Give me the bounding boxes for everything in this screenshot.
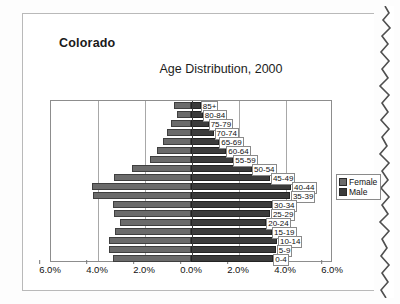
bar-half-male: 35-39 (191, 191, 331, 200)
age-group-label: 0-4 (273, 254, 289, 266)
bar-row: 10-14 (51, 236, 331, 245)
bar-male (191, 246, 276, 253)
bar-half-female (51, 101, 191, 110)
bar-half-female (51, 173, 191, 182)
bar-half-male: 15-19 (191, 227, 331, 236)
bar-female (150, 156, 191, 163)
bar-female (114, 210, 191, 217)
bar-half-female (51, 119, 191, 128)
x-axis-tick: 4.0% (86, 264, 108, 275)
torn-paper-edge (376, 6, 394, 298)
bar-female (163, 138, 191, 145)
bar-row: 60-64 (51, 146, 331, 155)
legend-label-male: Male (349, 187, 367, 197)
bar-half-female (51, 254, 191, 263)
bar-row: 25-29 (51, 209, 331, 218)
legend-item-male: Male (339, 187, 377, 197)
bar-female (177, 111, 191, 118)
bar-female (109, 246, 191, 253)
bar-row: 35-39 (51, 191, 331, 200)
bar-row: 85+ (51, 101, 331, 110)
bar-male (191, 237, 277, 244)
chart-title-text: Age Distribution, 2000 (160, 62, 283, 76)
bar-half-male: 10-14 (191, 236, 331, 245)
bar-female (157, 147, 191, 154)
bar-half-male: 80-84 (191, 110, 331, 119)
x-axis-tick: 0.0% (180, 264, 202, 275)
bar-half-female (51, 146, 191, 155)
bar-female (113, 201, 191, 208)
bar-half-female (51, 110, 191, 119)
bar-female (132, 165, 192, 172)
gridline-zero (192, 101, 193, 261)
bar-female (171, 120, 191, 127)
bar-half-male: 0-4 (191, 254, 331, 263)
state-title: Colorado (59, 36, 115, 50)
bar-half-male: 40-44 (191, 182, 331, 191)
bar-female (167, 129, 192, 136)
chart-title: Age Distribution, 2000 (23, 62, 375, 76)
bar-female (92, 183, 191, 190)
bar-half-female (51, 236, 191, 245)
bar-female (174, 102, 192, 109)
bar-half-female (51, 182, 191, 191)
bar-half-male: 50-54 (191, 164, 331, 173)
bar-half-female (51, 227, 191, 236)
bar-female (93, 192, 191, 199)
bar-half-male: 55-59 (191, 155, 331, 164)
bar-row: 55-59 (51, 155, 331, 164)
bar-half-female (51, 164, 191, 173)
bar-half-male: 5-9 (191, 245, 331, 254)
bar-female (113, 255, 191, 262)
chart-legend: Female Male (336, 174, 381, 200)
bar-female (120, 219, 191, 226)
bar-row: 20-24 (51, 218, 331, 227)
legend-swatch-male (339, 188, 347, 196)
bar-male (191, 228, 272, 235)
bar-female (115, 228, 191, 235)
chart-plot-area: 85+80-8475-7970-7465-6960-6455-5950-5445… (50, 100, 332, 262)
legend-item-female: Female (339, 177, 377, 187)
legend-swatch-female (339, 178, 347, 186)
bar-half-male: 20-24 (191, 218, 331, 227)
x-axis-tick: 6.0% (39, 264, 61, 275)
bar-male (191, 219, 266, 226)
bar-male (191, 192, 290, 199)
legend-label-female: Female (349, 177, 377, 187)
bar-half-male: 75-79 (191, 119, 331, 128)
bar-row: 80-84 (51, 110, 331, 119)
bar-row: 75-79 (51, 119, 331, 128)
bar-half-female (51, 209, 191, 218)
bar-half-female (51, 218, 191, 227)
x-axis-tickmark (39, 260, 40, 264)
bar-row: 30-34 (51, 200, 331, 209)
bar-half-male: 60-64 (191, 146, 331, 155)
bar-male (191, 210, 270, 217)
document-sheet: Colorado Age Distribution, 2000 85+80-84… (22, 13, 374, 291)
x-axis-tick: 2.0% (133, 264, 155, 275)
bar-half-male: 65-69 (191, 137, 331, 146)
x-axis-tick: 6.0% (321, 264, 343, 275)
bar-row: 15-19 (51, 227, 331, 236)
bar-half-female (51, 200, 191, 209)
bar-row: 50-54 (51, 164, 331, 173)
screenshot-page: Colorado Age Distribution, 2000 85+80-84… (0, 0, 400, 304)
bar-half-female (51, 128, 191, 137)
bar-row: 5-9 (51, 245, 331, 254)
bar-male (191, 255, 273, 262)
bar-half-female (51, 245, 191, 254)
bar-male (191, 201, 272, 208)
bar-row: 70-74 (51, 128, 331, 137)
x-axis: 6.0%4.0%2.0%0.0%2.0%4.0%6.0% (50, 264, 332, 280)
bar-half-male: 25-29 (191, 209, 331, 218)
bar-row: 65-69 (51, 137, 331, 146)
bar-row: 45-49 (51, 173, 331, 182)
bar-rows: 85+80-8475-7970-7465-6960-6455-5950-5445… (51, 101, 331, 261)
bar-half-male: 85+ (191, 101, 331, 110)
bar-half-female (51, 137, 191, 146)
bar-female (109, 237, 191, 244)
bar-female (114, 174, 191, 181)
bar-half-female (51, 155, 191, 164)
bar-half-female (51, 191, 191, 200)
x-axis-tick: 2.0% (227, 264, 249, 275)
